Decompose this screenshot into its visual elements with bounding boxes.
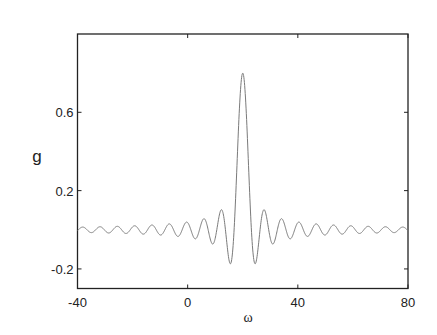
plot-frame <box>78 34 409 289</box>
x-tick-label: 40 <box>291 295 305 310</box>
x-tick-label: 0 <box>184 295 191 310</box>
y-tick-label: -0.2 <box>51 262 73 277</box>
chart: -4004080 -0.20.20.6 g ω <box>0 0 437 335</box>
y-tick-label: 0.2 <box>55 184 73 199</box>
y-tick-label: 0.6 <box>55 105 73 120</box>
x-tick-label: 80 <box>401 295 415 310</box>
x-tick-label: -40 <box>68 295 87 310</box>
x-axis-label: ω <box>243 310 252 325</box>
y-axis-label: g <box>32 147 41 166</box>
